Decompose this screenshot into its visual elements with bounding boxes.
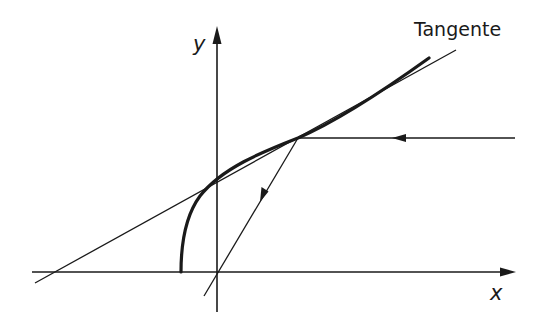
tangent-label: Tangente xyxy=(414,20,501,39)
parabola-curve xyxy=(181,58,429,272)
y-axis-label: y xyxy=(193,34,205,55)
x-axis-label: x xyxy=(490,283,502,304)
diagram-svg xyxy=(0,0,540,322)
x-axis xyxy=(32,268,516,277)
y-axis-arrow-icon xyxy=(213,26,222,44)
incident-ray xyxy=(298,134,515,142)
incident-ray-arrow-icon xyxy=(392,134,406,142)
diagram-canvas: Tangente y x xyxy=(0,0,540,322)
x-axis-arrow-icon xyxy=(500,268,516,277)
